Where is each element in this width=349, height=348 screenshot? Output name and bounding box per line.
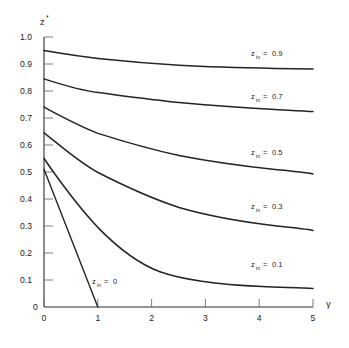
series-label-group-0.1: z in = 0.1 [251, 260, 283, 271]
y-tick-label: 0.7 [20, 113, 32, 123]
x-tick-label: 3 [203, 313, 208, 323]
curve-zin-0 [44, 169, 98, 307]
y-tick-label: 0.1 [20, 275, 32, 285]
y-axis-ticks [44, 37, 53, 280]
series-label-equals: = [263, 260, 268, 269]
x-tick-label: 1 [95, 313, 100, 323]
series-label-subscript: in [97, 282, 101, 288]
chart-figure: 1.0 0.9 0.8 0.7 0.6 0.5 0.4 0.3 0.2 0.1 … [0, 0, 349, 348]
series-label-prefix: z [251, 148, 255, 157]
x-tick-label: 5 [311, 313, 316, 323]
series-label-group-0.7: z in = 0.7 [251, 92, 283, 103]
series-label-subscript: in [256, 207, 260, 213]
y-axis-tick-labels: 1.0 0.9 0.8 0.7 0.6 0.5 0.4 0.3 0.2 0.1 … [20, 32, 38, 312]
series-label-equals: = [263, 148, 268, 157]
x-axis-title-symbol: γ [326, 298, 331, 309]
series-label-prefix: z [92, 277, 96, 286]
series-label-prefix: z [251, 260, 255, 269]
y-tick-label: 0.9 [20, 59, 32, 69]
y-axis-title-superscript: * [46, 14, 49, 21]
series-label-prefix: z [251, 92, 255, 101]
y-tick-label: 0.8 [20, 86, 32, 96]
series-label-equals: = [263, 92, 268, 101]
series-label-subscript: in [256, 54, 260, 60]
series-label-equals: = [104, 277, 109, 286]
y-tick-label: 0.3 [20, 221, 32, 231]
x-tick-label: 2 [149, 313, 154, 323]
y-tick-label: 0.2 [20, 248, 32, 258]
series-label-equals: = [263, 202, 268, 211]
x-axis-ticks [44, 299, 313, 307]
y-axis-title-symbol: z [40, 16, 45, 27]
series-label-group-0.5: z in = 0.5 [251, 148, 283, 159]
series-label-equals: = [263, 49, 268, 58]
series-label-value: 0 [113, 277, 117, 286]
series-label-subscript: in [256, 97, 260, 103]
y-tick-label: 1.0 [20, 32, 32, 42]
series-label-prefix: z [251, 49, 255, 58]
series-label-value: 0.5 [272, 148, 283, 157]
x-tick-label: 0 [42, 313, 47, 323]
y-tick-label: 0.4 [20, 194, 32, 204]
y-tick-label: 0.6 [20, 140, 32, 150]
chart-canvas: 1.0 0.9 0.8 0.7 0.6 0.5 0.4 0.3 0.2 0.1 … [0, 0, 349, 348]
series-label-group-0.3: z in = 0.3 [251, 202, 283, 213]
x-axis-tick-labels: 0 1 2 3 4 5 [42, 313, 316, 323]
series-label-group-0: z in = 0 [92, 277, 117, 288]
series-label-value: 0.7 [272, 92, 283, 101]
series-label-group-0.9: z in 0.9 = [251, 49, 283, 60]
curve-zin-0.1 [44, 159, 313, 289]
y-tick-label: 0 [33, 302, 38, 312]
x-tick-label: 4 [257, 313, 262, 323]
series-label-prefix: z [251, 202, 255, 211]
series-label-value: 0.9 [272, 49, 283, 58]
series-label-subscript: in [256, 153, 260, 159]
y-tick-label: 0.5 [20, 167, 32, 177]
series-label-value: 0.3 [272, 202, 283, 211]
series-label-subscript: in [256, 265, 260, 271]
series-label-value: 0.1 [272, 260, 283, 269]
y-axis-title: z * [40, 14, 49, 27]
